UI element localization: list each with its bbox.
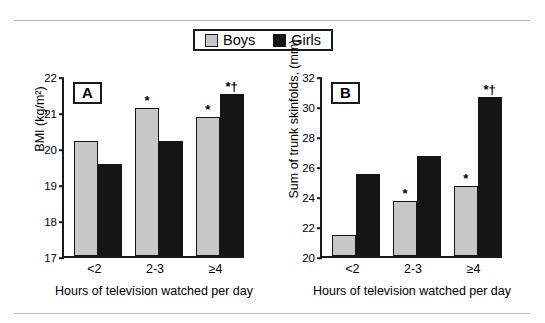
panel-a-xtick-1: 2-3 — [146, 262, 164, 276]
bar-boys-≥4 — [196, 117, 220, 256]
significance-marker-boys-2-3: * — [402, 188, 407, 199]
panel-a-xtick-0: <2 — [87, 262, 101, 276]
panel-b-ytick-30: 30 — [281, 102, 322, 114]
top-divider-rule — [14, 20, 530, 21]
panel-a-ytick-19: 19 — [23, 180, 64, 192]
bar-girls-2-3 — [417, 156, 441, 257]
panel-a-xtick-2: ≥4 — [209, 262, 223, 276]
panel-b-xtick-0: <2 — [345, 262, 359, 276]
boys-swatch-icon — [205, 34, 218, 47]
panel-a-ytick-21: 21 — [23, 108, 64, 120]
chart-legend: Boys Girls — [193, 29, 333, 51]
panel-b-plot-area: B ***† 20222426283032 — [320, 78, 502, 258]
bar-boys-<2 — [74, 141, 98, 256]
panel-b-ytick-26: 26 — [281, 162, 322, 174]
panel-a-x-axis-title: Hours of television watched per day — [40, 284, 268, 298]
panel-b: Sum of trunk skinfolds, (mm) B ***† 2022… — [270, 78, 520, 310]
panel-b-xtick-2: ≥4 — [467, 262, 481, 276]
bottom-divider-rule — [14, 313, 530, 314]
bar-boys-2-3 — [135, 108, 159, 256]
significance-marker-girls-≥4: *† — [484, 84, 496, 95]
panel-a-bars: ***† — [66, 78, 244, 256]
panel-b-ytick-20: 20 — [281, 252, 322, 264]
girls-swatch-icon — [273, 34, 286, 47]
panel-b-x-axis-title: Hours of television watched per day — [298, 284, 526, 298]
panel-a-ytick-17: 17 — [23, 252, 64, 264]
panel-a: BMI (kg/m²) A ***† 171819202122 Hours of… — [12, 78, 262, 310]
panel-b-ytick-32: 32 — [281, 72, 322, 84]
panel-b-ytick-28: 28 — [281, 132, 322, 144]
significance-marker-boys-2-3: * — [144, 95, 149, 106]
bar-boys-≥4 — [454, 186, 478, 257]
bar-girls-2-3 — [159, 141, 183, 256]
significance-marker-boys-≥4: * — [463, 173, 468, 184]
panel-a-ytick-20: 20 — [23, 144, 64, 156]
bar-boys-2-3 — [393, 201, 417, 257]
legend-item-boys: Boys — [205, 33, 255, 47]
panel-a-plot-area: A ***† 171819202122 — [62, 78, 244, 258]
bar-girls-<2 — [98, 164, 122, 256]
significance-marker-boys-≥4: * — [205, 104, 210, 115]
panel-b-ytick-24: 24 — [281, 192, 322, 204]
panel-b-y-axis-title: Sum of trunk skinfolds, (mm) — [287, 29, 301, 209]
figure-panel-container: Boys Girls BMI (kg/m²) A ***† 1718192021… — [0, 0, 545, 323]
panel-b-ytick-22: 22 — [281, 222, 322, 234]
bar-boys-<2 — [332, 235, 356, 256]
bar-girls-≥4 — [220, 94, 244, 256]
panel-b-bars: ***† — [324, 78, 502, 256]
bar-girls-<2 — [356, 174, 380, 257]
panel-a-ytick-18: 18 — [23, 216, 64, 228]
panel-a-ytick-22: 22 — [23, 72, 64, 84]
significance-marker-girls-≥4: *† — [226, 81, 238, 92]
panel-b-xtick-1: 2-3 — [404, 262, 422, 276]
legend-label-boys: Boys — [223, 33, 255, 47]
bar-girls-≥4 — [478, 97, 502, 256]
